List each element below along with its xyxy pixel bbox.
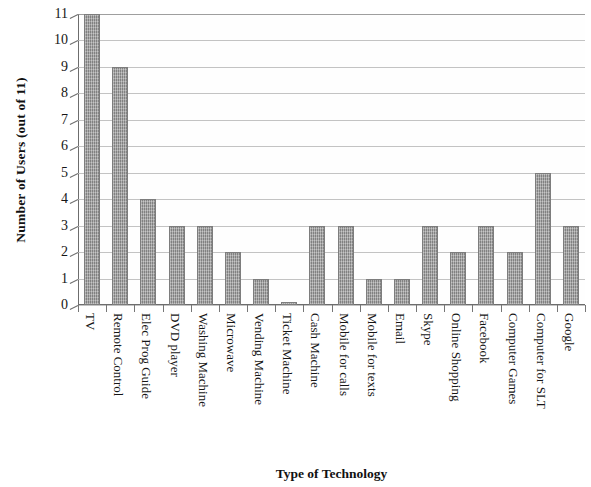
y-tick-label: 10 [20, 33, 68, 47]
x-label-slot: Elec Prog Guide [134, 313, 162, 463]
bar [140, 199, 156, 305]
x-tick-label: Ticket Machine [281, 313, 294, 394]
y-tick-mark [70, 252, 79, 257]
y-tick-mark [70, 279, 79, 284]
y-tick-mark [70, 67, 79, 72]
x-tick-label: Mobile for texts [366, 313, 379, 397]
x-label-slot: Google [557, 313, 585, 463]
bar-slot [78, 14, 106, 305]
bar-slot [472, 14, 500, 305]
x-tick-mark [275, 305, 276, 312]
x-tick-mark [191, 305, 192, 312]
y-tick-label: 9 [20, 60, 68, 74]
x-label-slot: Online Shopping [444, 313, 472, 463]
x-label-slot: Email [388, 313, 416, 463]
bar-slot [360, 14, 388, 305]
x-tick-label: Google [563, 313, 576, 351]
y-tick-label: 1 [20, 272, 68, 286]
y-tick-label: 0 [20, 298, 68, 312]
x-tick-label: Remote Control [112, 313, 125, 396]
bar [338, 226, 354, 305]
x-label-slot: Microwave [219, 313, 247, 463]
y-tick-mark [70, 199, 79, 204]
x-tick-label: Elec Prog Guide [140, 313, 153, 399]
x-label-slot: Mobile for calls [332, 313, 360, 463]
bar-slot [303, 14, 331, 305]
bar-series [78, 14, 585, 305]
bar [253, 279, 269, 305]
bar [197, 226, 213, 305]
bar [169, 226, 185, 305]
bar [507, 252, 523, 305]
x-tick-mark [585, 305, 586, 312]
bar-slot [247, 14, 275, 305]
x-tick-mark [557, 305, 558, 312]
bar-slot [557, 14, 585, 305]
bar-slot [134, 14, 162, 305]
x-label-slot: Skype [416, 313, 444, 463]
bar-slot [444, 14, 472, 305]
y-tick-label: 2 [20, 245, 68, 259]
bar-slot [275, 14, 303, 305]
x-label-slot: Remote Control [106, 313, 134, 463]
x-tick-label: Skype [422, 313, 435, 346]
x-tick-label: Vending Machine [253, 313, 266, 405]
x-tick-label: Washing Machine [197, 313, 210, 407]
x-label-slot: Computer for SLT [529, 313, 557, 463]
x-tick-mark [163, 305, 164, 312]
x-label-slot: Computer Games [501, 313, 529, 463]
y-tick-mark [70, 93, 79, 98]
x-label-slot: Cash Machine [303, 313, 331, 463]
x-tick-label: Cash Machine [309, 313, 322, 388]
y-tick-label: 6 [20, 139, 68, 153]
x-tick-mark [501, 305, 502, 312]
bar-slot [416, 14, 444, 305]
x-label-slot: Washing Machine [191, 313, 219, 463]
bar-slot [501, 14, 529, 305]
y-tick-label: 8 [20, 86, 68, 100]
x-axis-title: Type of Technology [78, 466, 585, 487]
bar-slot [388, 14, 416, 305]
y-tick-mark [70, 305, 79, 310]
x-tick-mark [416, 305, 417, 312]
x-tick-mark [360, 305, 361, 312]
x-tick-label: Computer Games [507, 313, 520, 404]
bar [450, 252, 466, 305]
y-tick-label: 11 [20, 7, 68, 21]
bar-slot [529, 14, 557, 305]
x-label-slot: DVD player [163, 313, 191, 463]
bar [478, 226, 494, 305]
y-tick-mark [70, 173, 79, 178]
x-tick-mark [219, 305, 220, 312]
y-tick-mark [70, 146, 79, 151]
bar [366, 279, 382, 305]
plot-area [78, 14, 585, 305]
x-tick-label: Facebook [478, 313, 491, 364]
y-tick-mark [70, 226, 79, 231]
x-tick-mark [303, 305, 304, 312]
x-tick-label: Microwave [225, 313, 238, 372]
x-label-slot: Ticket Machine [275, 313, 303, 463]
y-tick-label: 4 [20, 192, 68, 206]
y-tick-mark [70, 41, 79, 46]
bar-slot [219, 14, 247, 305]
x-label-slot: Vending Machine [247, 313, 275, 463]
x-tick-mark [332, 305, 333, 312]
x-tick-mark [134, 305, 135, 312]
x-label-slot: Mobile for texts [360, 313, 388, 463]
x-tick-mark [247, 305, 248, 312]
x-tick-label: TV [84, 313, 97, 330]
x-tick-mark [388, 305, 389, 312]
x-tick-mark [78, 305, 79, 312]
x-tick-mark [444, 305, 445, 312]
bar-slot [191, 14, 219, 305]
x-tick-mark [472, 305, 473, 312]
y-tick-mark [70, 14, 79, 19]
bar [563, 226, 579, 305]
y-tick-label: 5 [20, 166, 68, 180]
x-label-slot: TV [78, 313, 106, 463]
bar [535, 173, 551, 305]
x-tick-label: Online Shopping [450, 313, 463, 401]
bar-slot [163, 14, 191, 305]
x-tick-label: Mobile for calls [338, 313, 351, 396]
